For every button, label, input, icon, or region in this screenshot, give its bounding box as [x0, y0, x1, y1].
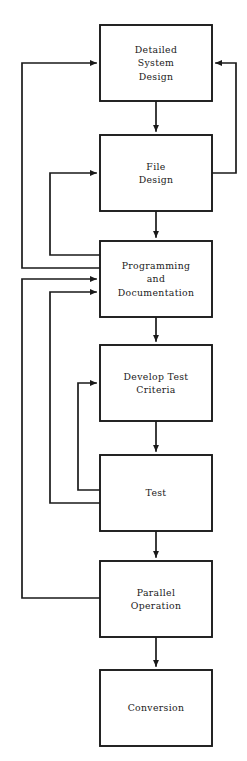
feedback-line-test-to-develop-test-criteria [78, 383, 100, 490]
process-box-test[interactable]: Test [100, 455, 212, 531]
box-label-line: Design [139, 174, 174, 185]
feedback-line-programming-and-documentation-to-detailed-system-design [22, 63, 100, 268]
box-label-line: Documentation [118, 287, 195, 298]
box-label-line: and [147, 273, 166, 284]
box-label-line: File [146, 161, 165, 172]
process-box-conversion[interactable]: Conversion [100, 670, 212, 746]
box-label-line: Detailed [135, 44, 177, 55]
box-label-line: Parallel [137, 587, 176, 598]
flowchart-svg: DetailedSystemDesignFileDesignProgrammin… [0, 0, 247, 761]
process-box-programming-and-documentation[interactable]: ProgrammingandDocumentation [100, 241, 212, 317]
box-label-line: Operation [131, 600, 182, 611]
feedback-line-file-design-to-detailed-system-design [212, 63, 236, 173]
box-label-line: Programming [122, 260, 191, 271]
feedback-line-programming-and-documentation-to-file-design [50, 173, 100, 255]
feedback-line-parallel-operation-to-programming-and-documentation [22, 279, 100, 598]
box-label-line: Design [139, 71, 174, 82]
process-box-file-design[interactable]: FileDesign [100, 135, 212, 211]
box-label-conversion: Conversion [128, 702, 185, 713]
flowchart-canvas: DetailedSystemDesignFileDesignProgrammin… [0, 0, 247, 761]
box-outline-file-design [100, 135, 212, 211]
box-label-line: Test [146, 487, 167, 498]
box-label-line: Criteria [136, 384, 176, 395]
box-label-line: Develop Test [124, 371, 189, 382]
box-label-test: Test [146, 487, 167, 498]
process-boxes-group: DetailedSystemDesignFileDesignProgrammin… [100, 25, 212, 746]
process-box-develop-test-criteria[interactable]: Develop TestCriteria [100, 345, 212, 421]
process-box-detailed-system-design[interactable]: DetailedSystemDesign [100, 25, 212, 101]
box-label-line: System [138, 57, 175, 68]
box-label-detailed-system-design: DetailedSystemDesign [135, 44, 177, 81]
box-outline-parallel-operation [100, 561, 212, 637]
feedback-line-test-to-programming-and-documentation [50, 292, 100, 503]
process-box-parallel-operation[interactable]: ParallelOperation [100, 561, 212, 637]
box-label-line: Conversion [128, 702, 185, 713]
box-outline-develop-test-criteria [100, 345, 212, 421]
